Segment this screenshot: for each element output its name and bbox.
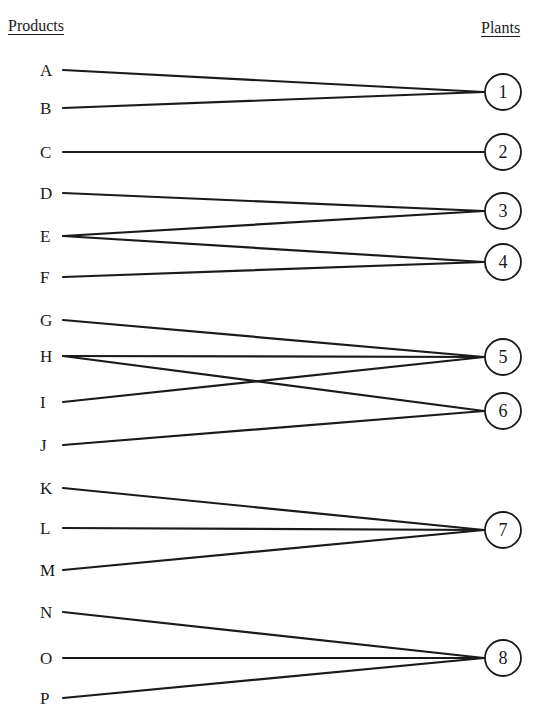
plant-label: 1 [499, 82, 508, 102]
product-plant-diagram: ABCDEFGHIJKLMNOP 12345678 [0, 0, 553, 728]
product-label-D: D [40, 184, 52, 203]
product-label-P: P [40, 689, 49, 708]
product-label-H: H [40, 347, 52, 366]
plant-label: 4 [499, 252, 508, 272]
product-label-O: O [40, 649, 52, 668]
product-label-I: I [40, 393, 46, 412]
product-label-C: C [40, 143, 51, 162]
product-label-M: M [40, 561, 55, 580]
plant-node-8: 8 [485, 640, 521, 676]
product-label-L: L [40, 519, 50, 538]
plant-label: 3 [499, 201, 508, 221]
plant-label: 7 [499, 520, 508, 540]
edge-G-5 [63, 320, 484, 357]
edge-J-6 [63, 411, 484, 445]
product-label-G: G [40, 311, 52, 330]
edge-F-4 [63, 262, 484, 277]
edge-H-5 [63, 356, 484, 357]
product-label-E: E [40, 227, 50, 246]
plant-node-1: 1 [485, 74, 521, 110]
plant-node-6: 6 [485, 393, 521, 429]
plant-label: 5 [499, 347, 508, 367]
plant-node-2: 2 [485, 134, 521, 170]
edge-E-4 [63, 236, 484, 262]
edge-M-7 [63, 530, 484, 570]
edges-layer [63, 70, 484, 698]
product-labels-layer: ABCDEFGHIJKLMNOP [40, 61, 55, 708]
plant-label: 2 [499, 142, 508, 162]
edge-P-8 [63, 658, 484, 698]
plant-node-3: 3 [485, 193, 521, 229]
plant-node-4: 4 [485, 244, 521, 280]
edge-A-1 [63, 70, 484, 92]
product-label-J: J [40, 436, 47, 455]
product-label-A: A [40, 61, 53, 80]
plant-nodes-layer: 12345678 [485, 74, 521, 676]
plant-node-7: 7 [485, 512, 521, 548]
edge-N-8 [63, 612, 484, 658]
product-label-N: N [40, 603, 52, 622]
plant-label: 6 [499, 401, 508, 421]
edge-B-1 [63, 92, 484, 108]
plant-node-5: 5 [485, 339, 521, 375]
product-label-B: B [40, 99, 51, 118]
edge-D-3 [63, 193, 484, 211]
edge-L-7 [63, 528, 484, 530]
edge-E-3 [63, 211, 484, 236]
product-label-F: F [40, 268, 49, 287]
plant-label: 8 [499, 648, 508, 668]
edge-K-7 [63, 488, 484, 530]
product-label-K: K [40, 479, 53, 498]
